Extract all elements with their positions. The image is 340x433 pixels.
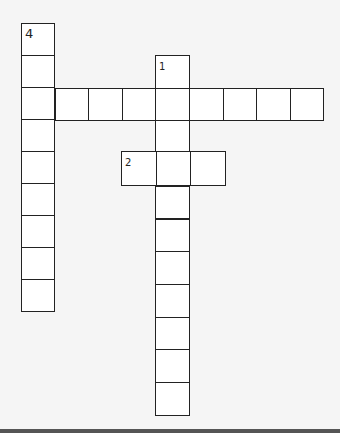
crossword-cell-1-down-10[interactable] bbox=[155, 349, 190, 383]
crossword-cell-3-across-7[interactable] bbox=[223, 88, 258, 121]
crossword-cell-3-across-9[interactable] bbox=[290, 88, 325, 121]
crossword-cell-4-down-7[interactable] bbox=[21, 215, 55, 248]
bottom-bar bbox=[0, 429, 340, 433]
crossword-cell-1-down-7[interactable] bbox=[155, 251, 190, 285]
crossword-cell-1-down-9[interactable] bbox=[155, 317, 190, 351]
crossword-cell-2-across-1[interactable]: 2 bbox=[121, 151, 157, 186]
crossword-cell-4-down-9[interactable] bbox=[21, 279, 55, 312]
crossword-cell-4-down-6[interactable] bbox=[21, 183, 55, 216]
crossword-cell-4-down-3[interactable] bbox=[21, 87, 55, 120]
clue-number-1: 1 bbox=[159, 62, 165, 72]
crossword-cell-2-across-2[interactable] bbox=[156, 151, 192, 186]
clue-number-2: 2 bbox=[125, 158, 131, 168]
crossword-cell-4-down-4[interactable] bbox=[21, 119, 55, 152]
crossword-cell-1-down-11[interactable] bbox=[155, 382, 190, 416]
crossword-cell-1-down-3[interactable] bbox=[155, 120, 190, 154]
crossword-cell-3-across-4[interactable] bbox=[122, 88, 157, 121]
crossword-cell-3-across-3[interactable] bbox=[88, 88, 123, 121]
crossword-cell-1-down-8[interactable] bbox=[155, 284, 190, 318]
crossword-cell-1-down-1[interactable]: 1 bbox=[155, 55, 190, 89]
crossword-cell-4-down-5[interactable] bbox=[21, 151, 55, 184]
crossword-cell-1-down-5[interactable] bbox=[155, 186, 190, 220]
crossword-cell-4-down-2[interactable] bbox=[21, 55, 55, 88]
crossword-cell-1-down-6[interactable] bbox=[155, 219, 190, 253]
crossword-cell-4-down-1[interactable]: 4 bbox=[21, 23, 55, 56]
crossword-cell-3-across-8[interactable] bbox=[256, 88, 291, 121]
crossword-cell-3-across-2[interactable] bbox=[55, 88, 90, 121]
crossword-cell-2-across-3[interactable] bbox=[190, 151, 226, 186]
crossword-cell-4-down-8[interactable] bbox=[21, 247, 55, 280]
crossword-cell-3-across-5[interactable] bbox=[155, 88, 190, 121]
crossword-cell-3-across-6[interactable] bbox=[189, 88, 224, 121]
clue-number-4: 4 bbox=[25, 27, 33, 40]
